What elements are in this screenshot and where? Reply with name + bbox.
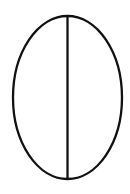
ellipse-diagram [0, 0, 130, 194]
diagram-canvas [0, 0, 130, 194]
